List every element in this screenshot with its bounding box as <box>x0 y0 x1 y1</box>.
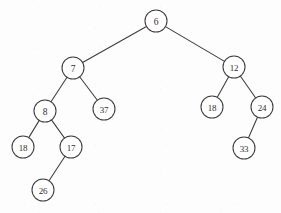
node-label-n17: 17 <box>67 143 76 153</box>
node-label-n37: 37 <box>100 105 109 115</box>
node-label-n8: 8 <box>43 107 48 117</box>
node-label-n18L: 18 <box>208 103 217 113</box>
edge-layer <box>29 26 258 180</box>
binary-tree-diagram: 6712837182418173326 <box>0 0 281 213</box>
tree-edge-8-to-17 <box>51 120 64 138</box>
tree-canvas: 6712837182418173326 <box>0 0 281 213</box>
tree-node-n17[interactable]: 17 <box>60 136 82 158</box>
tree-edge-12-to-24 <box>240 76 255 98</box>
node-label-n33: 33 <box>240 144 249 154</box>
tree-node-n6[interactable]: 6 <box>145 10 167 32</box>
tree-node-n33[interactable]: 33 <box>233 137 255 159</box>
node-label-n6: 6 <box>154 17 159 27</box>
tree-edge-7-to-37 <box>80 77 98 100</box>
tree-node-n37[interactable]: 37 <box>93 98 115 120</box>
tree-edge-6-to-7 <box>83 26 147 62</box>
tree-node-n7[interactable]: 7 <box>62 57 84 79</box>
tree-node-n18A[interactable]: 18 <box>12 136 34 158</box>
tree-edge-24-to-33 <box>248 117 257 138</box>
tree-edge-6-to-12 <box>165 27 224 62</box>
tree-node-n12[interactable]: 12 <box>223 56 245 78</box>
node-layer: 6712837182418173326 <box>12 10 273 201</box>
tree-edge-7-to-8 <box>51 77 67 102</box>
tree-node-n24[interactable]: 24 <box>251 96 273 118</box>
tree-node-n8[interactable]: 8 <box>34 100 56 122</box>
tree-node-n26[interactable]: 26 <box>32 179 54 201</box>
node-label-n24: 24 <box>258 103 267 113</box>
tree-edge-8-to-18 <box>29 120 40 137</box>
node-label-n7: 7 <box>71 64 76 74</box>
tree-edge-12-to-18 <box>217 77 228 98</box>
tree-edge-17-to-26 <box>49 156 65 181</box>
node-label-n26: 26 <box>39 186 48 196</box>
node-label-n12: 12 <box>230 63 239 73</box>
tree-node-n18L[interactable]: 18 <box>201 96 223 118</box>
node-label-n18A: 18 <box>19 143 28 153</box>
